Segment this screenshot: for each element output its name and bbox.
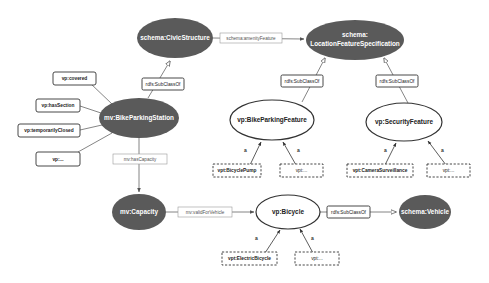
edge-covered bbox=[90, 83, 112, 104]
subclass-bike-feature-text: rdfs:SubClassOf bbox=[285, 79, 321, 84]
edge-a-electric-bicycle bbox=[265, 230, 280, 253]
valid-for-vehicle-text: mv:validForVehicle bbox=[186, 210, 225, 215]
edge-a-security-more bbox=[428, 141, 446, 165]
a-label-camera-surveillance: a bbox=[384, 147, 387, 153]
electric-bicycle-text: vpt:ElectricBicycle bbox=[228, 256, 271, 261]
bicycle-label: vp:Bicycle bbox=[272, 208, 304, 216]
edge-label-subclass-vehicle: rdfs:SubClassOf bbox=[327, 206, 370, 218]
location-feature-label-line2: LocationFeatureSpecification bbox=[310, 40, 400, 48]
has-section-text: vp:hasSection bbox=[42, 103, 75, 108]
edge-label-subclass-bike-feature: rdfs:SubClassOf bbox=[281, 75, 323, 87]
edge-vp-more bbox=[78, 133, 112, 152]
edge-a-bicycle-more bbox=[300, 229, 313, 253]
subclass-security-text: rdfs:SubClassOf bbox=[380, 79, 416, 84]
node-bicycle[interactable]: vp:Bicycle bbox=[256, 195, 320, 229]
bike-feature-more-text: vpt:... bbox=[296, 168, 308, 173]
a-label-bicycle-pump: a bbox=[244, 147, 247, 153]
node-vehicle[interactable]: schema:Vehicle bbox=[399, 195, 451, 229]
a-label-bike-feature-more: a bbox=[297, 147, 300, 153]
bicycle-more-text: vpt:... bbox=[311, 256, 323, 261]
amenity-feature-text: schema:amenityFeature bbox=[226, 36, 276, 41]
subclass-vehicle-text: rdfs:SubClassOf bbox=[331, 210, 367, 215]
security-feature-label: vp:SecurityFeature bbox=[375, 118, 433, 126]
bike-parking-feature-label: vp:BikeParkingFeature bbox=[237, 116, 307, 124]
a-label-electric-bicycle: a bbox=[255, 235, 258, 241]
capacity-label: mv:Capacity bbox=[120, 208, 158, 216]
instance-box-security-more[interactable]: vpt:... bbox=[427, 164, 470, 177]
instance-box-bicycle-pump[interactable]: vpt:BicyclePump bbox=[213, 164, 261, 177]
temporarily-closed-text: vp:temporarilyClosed bbox=[24, 128, 73, 133]
vp-more-text: vp:... bbox=[52, 157, 63, 162]
property-box-temporarily-closed[interactable]: vp:temporarilyClosed bbox=[18, 124, 80, 137]
edge-label-amenity-feature: schema:amenityFeature bbox=[220, 33, 282, 43]
instance-box-camera-surveillance[interactable]: vpt:CameraSurveillance bbox=[347, 164, 413, 177]
a-label-bicycle-more: a bbox=[311, 235, 314, 241]
node-civic-structure[interactable]: schema:CivicStructure bbox=[137, 18, 213, 58]
bicycle-pump-text: vpt:BicyclePump bbox=[218, 168, 257, 173]
node-bike-parking-station[interactable]: mv:BikeParkingStation bbox=[99, 98, 179, 138]
instance-box-electric-bicycle[interactable]: vpt:ElectricBicycle bbox=[222, 252, 277, 265]
instance-box-bicycle-more[interactable]: vpt:... bbox=[295, 252, 339, 265]
has-capacity-text: mv:hasCapacity bbox=[124, 157, 157, 162]
node-security-feature[interactable]: vp:SecurityFeature bbox=[366, 103, 442, 141]
node-capacity[interactable]: mv:Capacity bbox=[112, 194, 166, 230]
vehicle-label: schema:Vehicle bbox=[401, 208, 449, 215]
nodes: schema:CivicStructure schema: LocationFe… bbox=[99, 18, 451, 230]
instance-box-bike-feature-more[interactable]: vpt:... bbox=[280, 164, 323, 177]
edge-a-bike-feature-more bbox=[283, 142, 296, 165]
ontology-diagram: schema:amenityFeature rdfs:SubClassOf rd… bbox=[0, 0, 489, 283]
edge-temporarily-closed bbox=[80, 125, 102, 130]
property-box-has-section[interactable]: vp:hasSection bbox=[36, 99, 80, 112]
security-more-text: vpt:... bbox=[443, 168, 455, 173]
subclass-civic-text: rdfs:SubClassOf bbox=[146, 82, 182, 87]
bike-parking-station-label: mv:BikeParkingStation bbox=[104, 114, 174, 122]
camera-surveillance-text: vpt:CameraSurveillance bbox=[353, 168, 408, 173]
property-boxes: vp:covered vp:hasSection vp:temporarilyC… bbox=[18, 72, 96, 166]
property-box-vp-more[interactable]: vp:... bbox=[36, 152, 80, 166]
node-bike-parking-feature[interactable]: vp:BikeParkingFeature bbox=[230, 100, 314, 140]
edge-label-subclass-security: rdfs:SubClassOf bbox=[376, 75, 418, 87]
edge-label-valid-for-vehicle: mv:validForVehicle bbox=[178, 207, 232, 217]
edge-has-section bbox=[80, 106, 101, 113]
edge-label-has-capacity: mv:hasCapacity bbox=[113, 154, 167, 164]
edge-label-subclass-civic: rdfs:SubClassOf bbox=[142, 78, 184, 90]
civic-structure-label: schema:CivicStructure bbox=[140, 34, 210, 41]
node-location-feature-specification[interactable]: schema: LocationFeatureSpecification bbox=[306, 20, 404, 60]
covered-text: vp:covered bbox=[62, 76, 88, 81]
property-box-covered[interactable]: vp:covered bbox=[53, 72, 96, 85]
location-feature-label-line1: schema: bbox=[342, 31, 368, 38]
a-label-security-more: a bbox=[441, 147, 444, 153]
edge-a-bicycle-pump bbox=[250, 142, 261, 165]
